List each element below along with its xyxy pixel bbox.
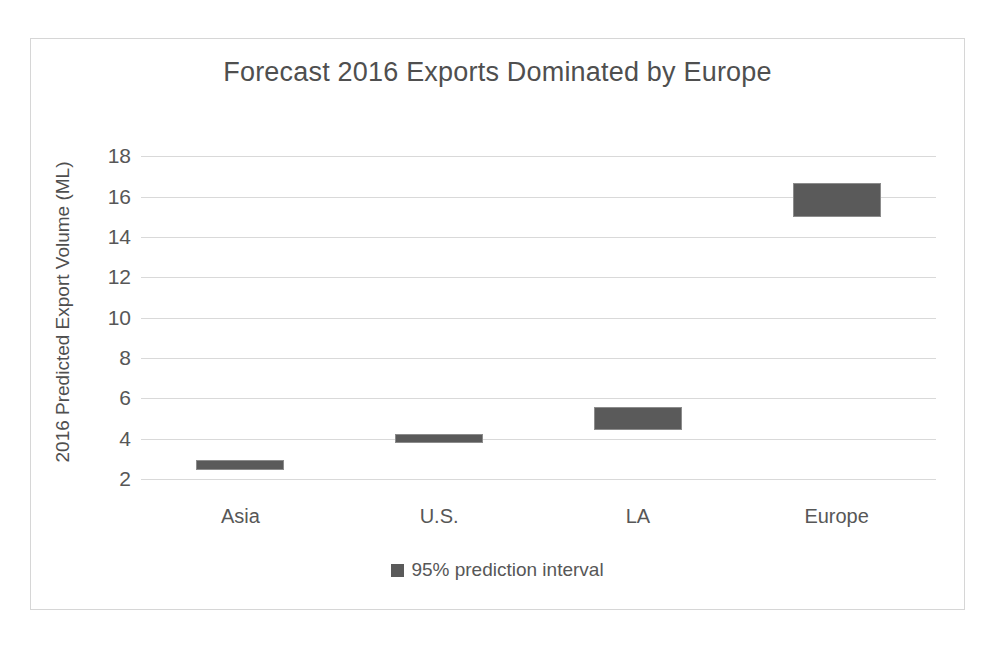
legend-item-prediction-interval: 95% prediction interval bbox=[391, 559, 603, 581]
gridline bbox=[141, 237, 936, 238]
gridline bbox=[141, 318, 936, 319]
bar-la bbox=[594, 407, 682, 430]
gridline bbox=[141, 277, 936, 278]
x-tick-label: Asia bbox=[221, 505, 260, 528]
chart-legend: 95% prediction interval bbox=[31, 559, 964, 581]
y-tick-label: 6 bbox=[71, 386, 131, 410]
y-tick-label: 10 bbox=[71, 306, 131, 330]
legend-label: 95% prediction interval bbox=[411, 559, 603, 581]
legend-swatch-icon bbox=[391, 564, 404, 577]
gridline bbox=[141, 156, 936, 157]
plot-area: 24681012141618 bbox=[141, 136, 936, 495]
x-tick-label: Europe bbox=[804, 505, 869, 528]
gridline bbox=[141, 439, 936, 440]
gridline bbox=[141, 479, 936, 480]
chart-frame: Forecast 2016 Exports Dominated by Europ… bbox=[30, 38, 965, 610]
chart-title: Forecast 2016 Exports Dominated by Europ… bbox=[31, 57, 964, 88]
bar-asia bbox=[196, 460, 284, 470]
gridline bbox=[141, 398, 936, 399]
x-tick-label: LA bbox=[626, 505, 650, 528]
x-tick-label: U.S. bbox=[420, 505, 459, 528]
x-axis-tick-labels: AsiaU.S.LAEurope bbox=[141, 505, 936, 539]
y-tick-label: 8 bbox=[71, 346, 131, 370]
y-tick-label: 16 bbox=[71, 185, 131, 209]
bar-us bbox=[395, 434, 483, 442]
bar-europe bbox=[793, 183, 881, 216]
gridline bbox=[141, 358, 936, 359]
y-tick-label: 2 bbox=[71, 467, 131, 491]
y-tick-label: 14 bbox=[71, 225, 131, 249]
y-tick-label: 18 bbox=[71, 144, 131, 168]
y-tick-label: 4 bbox=[71, 427, 131, 451]
y-tick-label: 12 bbox=[71, 265, 131, 289]
